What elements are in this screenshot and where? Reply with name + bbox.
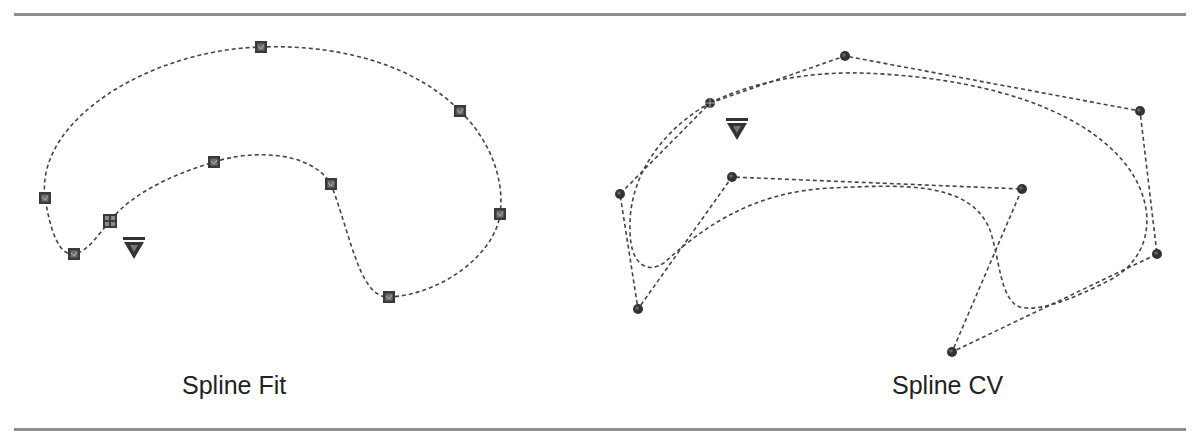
control-polygon [620,56,1157,352]
control-vertex[interactable] [1135,106,1145,116]
fit-point[interactable] [208,156,220,168]
control-vertex[interactable] [947,347,957,357]
control-vertex[interactable] [1152,249,1162,259]
spline-cv-curve [630,73,1147,308]
control-vertex[interactable] [840,51,850,61]
spline-fit-panel [39,41,506,303]
fit-point[interactable] [68,248,80,260]
spline-diagram [0,0,1199,443]
fit-point[interactable] [39,192,51,204]
spline-fit-caption: Spline Fit [182,371,286,400]
control-vertex[interactable] [1017,184,1027,194]
fit-point[interactable] [454,105,466,117]
spline-cv-panel [615,51,1162,357]
spline-cv-caption: Spline CV [892,371,1003,400]
spline-fit-curve [44,47,501,297]
control-vertex[interactable] [633,304,643,314]
fit-point[interactable] [325,178,337,190]
start-point-marker[interactable] [103,214,117,228]
fit-point[interactable] [383,291,395,303]
fit-point[interactable] [494,208,506,220]
direction-triangle-icon[interactable] [123,237,145,259]
direction-triangle-icon[interactable] [726,118,748,140]
control-vertex[interactable] [615,189,625,199]
start-vertex-marker[interactable] [705,98,715,108]
control-vertex[interactable] [727,172,737,182]
fit-point[interactable] [255,41,267,53]
